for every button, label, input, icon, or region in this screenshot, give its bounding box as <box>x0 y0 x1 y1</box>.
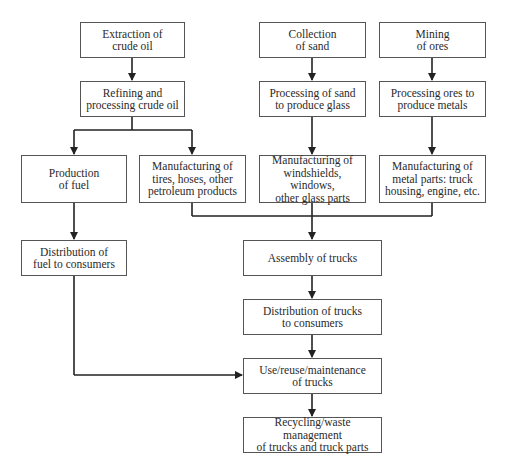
node-production-of-fuel: Production of fuel <box>21 155 127 203</box>
node-processing-ores: Processing ores to produce metals <box>379 81 486 117</box>
node-refining-crude-oil: Refining and processing crude oil <box>80 81 185 117</box>
node-processing-sand: Processing of sand to produce glass <box>259 81 366 117</box>
node-manufacturing-glass: Manufacturing of windshields, windows, o… <box>259 155 366 203</box>
node-extraction-crude-oil: Extraction of crude oil <box>80 22 185 58</box>
node-mining-of-ores: Mining of ores <box>379 22 486 58</box>
node-recycling-waste-management: Recycling/waste management of trucks and… <box>243 417 382 453</box>
life-cycle-flowchart: Extraction of crude oil Collection of sa… <box>0 0 508 470</box>
node-distribution-of-fuel: Distribution of fuel to consumers <box>21 240 127 276</box>
connector-lines <box>0 0 508 470</box>
node-manufacturing-tires: Manufacturing of tires, hoses, other pet… <box>139 155 246 203</box>
node-collection-of-sand: Collection of sand <box>259 22 366 58</box>
node-manufacturing-metal: Manufacturing of metal parts: truck hous… <box>379 155 486 203</box>
node-assembly-of-trucks: Assembly of trucks <box>243 240 382 276</box>
node-distribution-of-trucks: Distribution of trucks to consumers <box>243 299 382 335</box>
node-use-reuse-maintenance: Use/reuse/maintenance of trucks <box>243 358 382 394</box>
